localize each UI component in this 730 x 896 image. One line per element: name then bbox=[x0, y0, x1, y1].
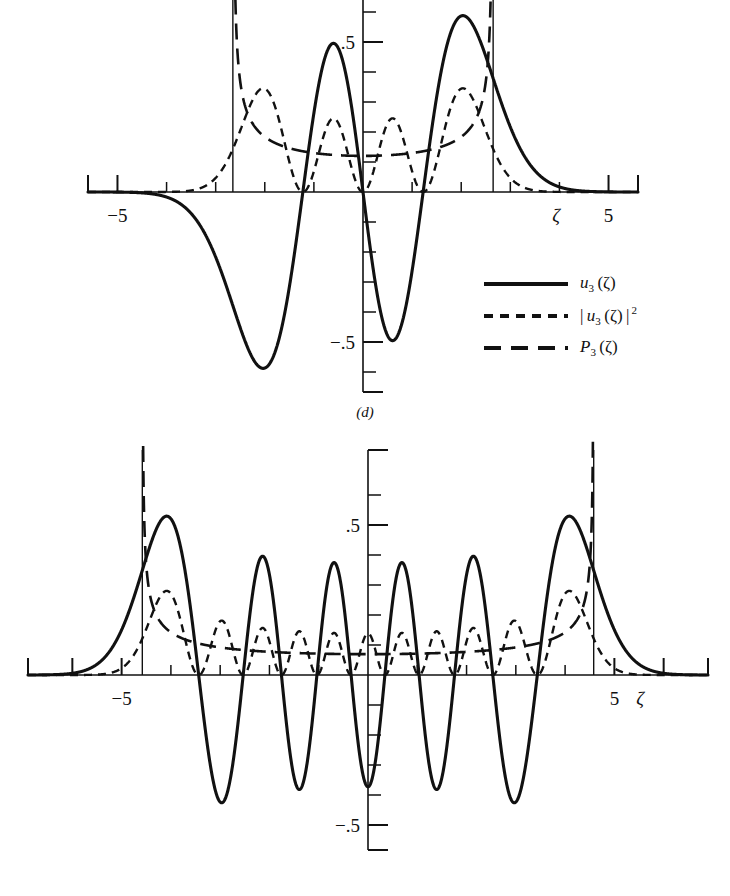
svg-text:−.5: −.5 bbox=[335, 815, 360, 836]
legend-swatch-solid-icon bbox=[484, 282, 568, 286]
legend-entry-p3: P3 (ζ) bbox=[484, 332, 637, 364]
svg-text:ζ: ζ bbox=[636, 688, 645, 709]
legend-label-p3: P3 (ζ) bbox=[580, 337, 618, 358]
panel-d: −55ζ.5−.5 (d) u3 (ζ) | u3 (ζ) | 2 P3 (ζ) bbox=[0, 0, 730, 440]
legend-swatch-short-dash-icon bbox=[484, 314, 568, 318]
svg-text:−5: −5 bbox=[112, 688, 132, 709]
svg-text:−.5: −.5 bbox=[330, 332, 355, 353]
chart-e-svg: −55ζ.5−.5 bbox=[0, 440, 730, 896]
panel-d-caption: (d) bbox=[0, 404, 730, 421]
legend-label-u3-squared: | u3 (ζ) | 2 bbox=[580, 304, 637, 327]
legend-panel-d: u3 (ζ) | u3 (ζ) | 2 P3 (ζ) bbox=[484, 268, 637, 364]
svg-text:ζ: ζ bbox=[552, 205, 561, 226]
legend-swatch-long-dash-icon bbox=[484, 346, 568, 350]
svg-text:.5: .5 bbox=[346, 515, 360, 536]
legend-label-u3: u3 (ζ) bbox=[580, 273, 616, 294]
svg-text:5: 5 bbox=[604, 205, 614, 226]
chart-d-svg: −55ζ.5−.5 bbox=[0, 0, 730, 440]
svg-text:−5: −5 bbox=[107, 205, 127, 226]
svg-text:.5: .5 bbox=[341, 32, 355, 53]
svg-text:5: 5 bbox=[610, 688, 620, 709]
legend-entry-u3: u3 (ζ) bbox=[484, 268, 637, 300]
panel-e: −55ζ.5−.5 (e) u10 (ζ) | u10 (ζ) | 2 P10 … bbox=[0, 440, 730, 896]
legend-entry-u3-squared: | u3 (ζ) | 2 bbox=[484, 300, 637, 332]
